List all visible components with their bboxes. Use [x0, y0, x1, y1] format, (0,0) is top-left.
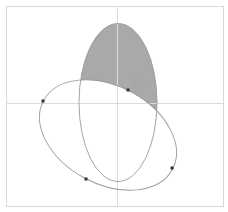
- diagram-canvas: [0, 0, 228, 212]
- point-a[interactable]: [42, 100, 45, 103]
- point-b[interactable]: [85, 178, 88, 181]
- ellipse-diagram: [0, 0, 228, 212]
- point-d[interactable]: [127, 89, 130, 92]
- point-c[interactable]: [171, 167, 174, 170]
